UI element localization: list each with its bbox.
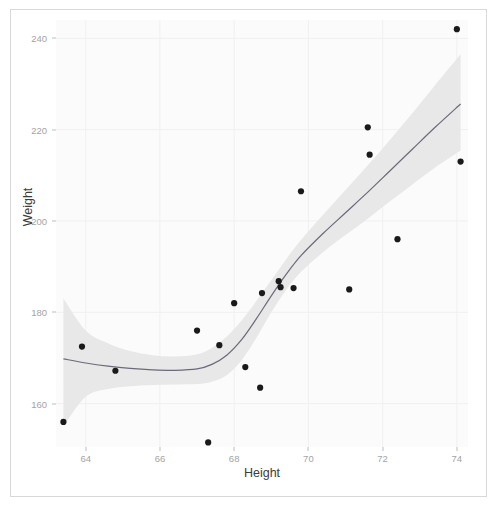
data-point bbox=[457, 158, 463, 164]
x-tick-mark bbox=[85, 447, 86, 451]
y-tick-label: 240 bbox=[7, 33, 47, 44]
confidence-band bbox=[63, 54, 460, 426]
data-point bbox=[454, 26, 460, 32]
plot-canvas bbox=[56, 20, 468, 447]
x-tick-mark bbox=[456, 447, 457, 451]
data-point bbox=[276, 278, 282, 284]
data-point bbox=[290, 285, 296, 291]
y-tick-label: 180 bbox=[7, 307, 47, 318]
x-axis: 646668707274 bbox=[56, 447, 468, 467]
x-tick-mark bbox=[159, 447, 160, 451]
data-point bbox=[257, 385, 263, 391]
x-tick-label: 70 bbox=[303, 453, 314, 464]
data-point bbox=[367, 152, 373, 158]
data-point bbox=[259, 290, 265, 296]
data-point bbox=[194, 327, 200, 333]
y-axis: 160180200220240 bbox=[11, 20, 56, 447]
chart-figure: Weight 160180200220240 646668707274 Heig… bbox=[10, 9, 487, 497]
data-point bbox=[394, 236, 400, 242]
x-tick-label: 72 bbox=[377, 453, 388, 464]
y-tick-label: 220 bbox=[7, 124, 47, 135]
data-point bbox=[60, 419, 66, 425]
x-axis-title: Height bbox=[56, 466, 468, 480]
x-tick-label: 74 bbox=[452, 453, 463, 464]
data-point bbox=[277, 284, 283, 290]
data-point bbox=[365, 124, 371, 130]
x-tick-mark bbox=[382, 447, 383, 451]
data-point bbox=[231, 300, 237, 306]
data-point bbox=[346, 286, 352, 292]
y-tick-label: 160 bbox=[7, 398, 47, 409]
data-point bbox=[112, 368, 118, 374]
data-point bbox=[216, 342, 222, 348]
data-point bbox=[79, 343, 85, 349]
x-tick-label: 66 bbox=[155, 453, 166, 464]
y-tick-label: 200 bbox=[7, 215, 47, 226]
x-tick-mark bbox=[234, 447, 235, 451]
data-point bbox=[298, 188, 304, 194]
plot-panel bbox=[56, 20, 468, 447]
x-tick-mark bbox=[308, 447, 309, 451]
data-point bbox=[205, 439, 211, 445]
x-tick-label: 68 bbox=[229, 453, 240, 464]
x-tick-label: 64 bbox=[80, 453, 91, 464]
data-point bbox=[242, 364, 248, 370]
